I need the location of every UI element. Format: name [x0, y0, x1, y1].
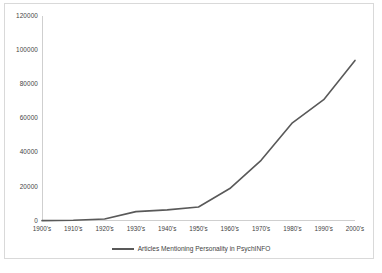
legend-line-swatch [112, 248, 134, 250]
y-axis-tick-label: 60000 [20, 115, 38, 121]
x-axis-tick-label: 1930's [127, 226, 145, 232]
x-axis-tick-label: 1970's [252, 226, 270, 232]
x-axis-tick-label: 2000's [346, 226, 364, 232]
chart-figure: 020000400006000080000100000120000 1900's… [0, 0, 382, 273]
y-axis-tick-label: 0 [34, 218, 38, 224]
x-axis-tick-label: 1950's [189, 226, 207, 232]
legend-label: Articles Mentioning Personality in Psych… [138, 246, 271, 253]
x-axis-tick-label: 1910's [64, 226, 82, 232]
x-axis-tick-label: 1980's [283, 226, 301, 232]
x-axis-tick-label: 1900's [33, 226, 51, 232]
y-axis-tick-label: 40000 [20, 149, 38, 155]
x-axis-tick-label: 1960's [221, 226, 239, 232]
x-axis-tick-label: 1990's [315, 226, 333, 232]
x-axis-tick-label: 1920's [95, 226, 113, 232]
y-axis-tick-label: 120000 [16, 13, 38, 19]
data-series-line [42, 60, 355, 220]
y-axis-tick-label: 20000 [20, 184, 38, 190]
y-axis-tick-label: 100000 [16, 47, 38, 53]
x-axis: 1900's1910's1920's1930's1940's1950's1960… [0, 226, 382, 240]
x-axis-tick-label: 1940's [158, 226, 176, 232]
chart-plot-svg [42, 16, 355, 221]
chart-legend: Articles Mentioning Personality in Psych… [0, 246, 382, 253]
y-axis-tick-label: 80000 [20, 81, 38, 87]
